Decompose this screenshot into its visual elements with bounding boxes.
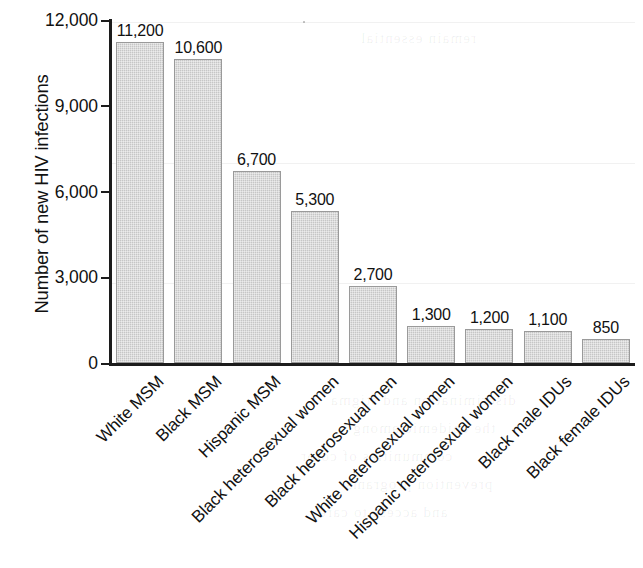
bar-value-label: 11,200 [117, 22, 164, 40]
bar[interactable] [291, 211, 339, 363]
x-axis-label: Black female IDUs [523, 372, 634, 483]
bar-value-label: 1,100 [528, 311, 567, 329]
plot-area: 11,20010,6006,7005,3002,7001,3001,2001,1… [111, 19, 635, 363]
y-tick-label: 9,000 [55, 96, 98, 116]
bar[interactable] [465, 329, 513, 363]
bar-value-label: 1,200 [470, 309, 509, 327]
bar-value-label: 10,600 [174, 39, 222, 57]
bar-value-label: 6,700 [237, 151, 276, 169]
bar[interactable] [233, 171, 281, 363]
x-axis-labels: White MSMBlack MSMHispanic MSMBlack hete… [0, 366, 643, 568]
bar[interactable] [174, 59, 222, 363]
bar-value-label: 2,700 [353, 266, 392, 284]
bar-slot: 1,100 [524, 19, 572, 363]
bar-slot: 2,700 [349, 19, 397, 363]
y-tick-label: 12,000 [45, 10, 98, 30]
bar[interactable] [582, 339, 630, 363]
bar-value-label: 850 [593, 319, 619, 337]
bar[interactable] [349, 286, 397, 363]
bar-slot: 1,200 [465, 19, 513, 363]
bar-slot: 11,200 [116, 19, 164, 363]
bar-value-label: 1,300 [412, 306, 451, 324]
bar[interactable] [116, 42, 164, 363]
bar[interactable] [407, 326, 455, 363]
bar-slot: 10,600 [174, 19, 222, 363]
y-tick-label: 3,000 [55, 267, 98, 287]
bar[interactable] [524, 331, 572, 363]
bar-slot: 6,700 [233, 19, 281, 363]
bar-value-label: 5,300 [295, 191, 334, 209]
bar-slot: 850 [582, 19, 630, 363]
bar-slot: 1,300 [407, 19, 455, 363]
bar-slot: 5,300 [291, 19, 339, 363]
y-tick-label: 6,000 [55, 182, 98, 202]
hiv-infections-bar-chart: discrimination and stigma the epidemic a… [0, 0, 643, 568]
